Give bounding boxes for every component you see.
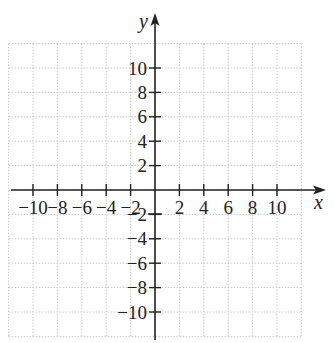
y-tick-label: −8: [127, 277, 147, 298]
y-tick-label: 10: [128, 58, 147, 79]
x-tick-label: 4: [199, 197, 209, 218]
coordinate-plane: −10−8−6−4−2246810108642−2−4−6−8−10 x y: [0, 0, 334, 343]
axes: [11, 13, 326, 340]
y-tick-label: −10: [117, 302, 147, 323]
x-tick-label: −6: [72, 197, 92, 218]
y-axis-label: y: [137, 10, 148, 33]
y-tick-label: 8: [138, 82, 148, 103]
x-tick-label: −4: [96, 197, 117, 218]
y-tick-label: −4: [127, 228, 148, 249]
y-tick-label: −2: [127, 204, 147, 225]
x-tick-label: 8: [248, 197, 258, 218]
y-tick-label: 6: [138, 106, 148, 127]
x-tick-label: 6: [223, 197, 233, 218]
y-tick-label: 2: [138, 155, 148, 176]
x-tick-label: 10: [268, 197, 287, 218]
y-tick-label: −6: [127, 253, 147, 274]
x-tick-label: −8: [47, 197, 67, 218]
y-tick-label: 4: [138, 131, 148, 152]
x-tick-label: −10: [18, 197, 48, 218]
x-axis-label: x: [313, 191, 323, 213]
x-tick-label: 2: [175, 197, 185, 218]
